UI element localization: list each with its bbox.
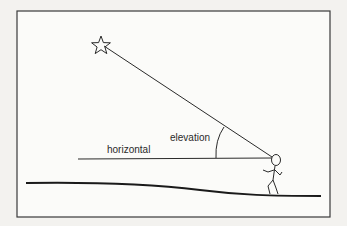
elevation-label: elevation (170, 132, 210, 143)
frame-border (17, 11, 330, 217)
horizontal-label: horizontal (107, 144, 150, 155)
elevation-diagram: horizontal elevation (0, 0, 347, 226)
